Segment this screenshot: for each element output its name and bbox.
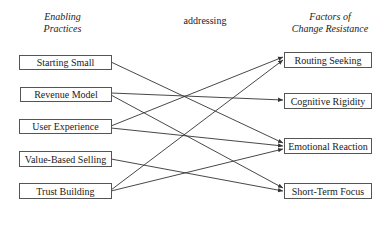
factor-box-emotional-reaction: Emotional Reaction xyxy=(284,138,372,154)
practice-box-value-based-selling: Value-Based Selling xyxy=(19,151,112,167)
factor-label: Short-Term Focus xyxy=(292,186,364,197)
factor-label: Cognitive Rigidity xyxy=(291,96,366,107)
factor-box-cognitive-rigidity: Cognitive Rigidity xyxy=(284,93,372,109)
practice-label: Trust Building xyxy=(36,186,94,197)
practice-label: Value-Based Selling xyxy=(25,154,106,165)
practice-box-starting-small: Starting Small xyxy=(19,55,112,70)
practice-label: User Experience xyxy=(32,121,98,132)
practice-label: Starting Small xyxy=(37,57,95,68)
practice-box-user-experience: User Experience xyxy=(19,119,112,134)
arrow-trust-building-to-routing-seeking xyxy=(111,60,283,190)
arrow-value-based-selling-to-short-term-focus xyxy=(111,159,283,191)
arrow-user-experience-to-routing-seeking xyxy=(111,57,283,126)
arrow-revenue-model-to-cognitive-rigidity xyxy=(111,93,283,100)
practice-box-revenue-model: Revenue Model xyxy=(20,87,112,102)
factor-label: Routing Seeking xyxy=(295,55,362,66)
factor-box-short-term-focus: Short-Term Focus xyxy=(284,183,372,199)
factor-label: Emotional Reaction xyxy=(288,141,368,152)
factor-box-routing-seeking: Routing Seeking xyxy=(284,52,372,68)
arrow-revenue-model-to-short-term-focus xyxy=(111,95,283,188)
practice-box-trust-building: Trust Building xyxy=(19,183,112,199)
practice-label: Revenue Model xyxy=(34,89,98,100)
